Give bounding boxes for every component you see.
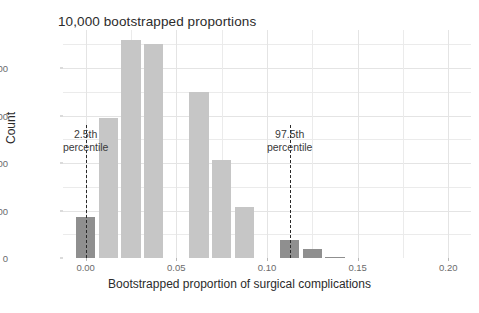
annotation-line-1: 97.5th bbox=[245, 128, 335, 141]
x-axis-tick-label: 0.00 bbox=[76, 262, 95, 273]
gridline-vertical bbox=[176, 30, 177, 258]
annotation-upper-percentile: 97.5thpercentile bbox=[245, 128, 335, 154]
x-axis-tick-label: 0.05 bbox=[167, 262, 186, 273]
gridline-vertical-minor bbox=[403, 30, 404, 258]
y-axis-tick-mark bbox=[60, 115, 63, 116]
histogram-bar bbox=[303, 249, 322, 258]
gridline-vertical bbox=[448, 30, 449, 258]
x-axis-title: Bootstrapped proportion of surgical comp… bbox=[0, 277, 479, 291]
y-axis-tick-mark bbox=[60, 163, 63, 164]
histogram-figure: 10,000 bootstrapped proportions 2.5thper… bbox=[0, 0, 479, 313]
histogram-bar bbox=[144, 44, 163, 258]
histogram-bar bbox=[325, 257, 344, 258]
x-axis-tick-mark bbox=[448, 258, 449, 261]
y-axis-tick-label: 500 bbox=[0, 205, 8, 216]
y-axis-title: Count bbox=[4, 112, 18, 144]
x-axis-tick-mark bbox=[267, 258, 268, 261]
gridline-vertical bbox=[358, 30, 359, 258]
x-axis-tick-mark bbox=[358, 258, 359, 261]
y-axis-tick-label: 1000 bbox=[0, 158, 8, 169]
y-axis-tick-label: 0 bbox=[3, 253, 8, 264]
y-axis-tick-mark bbox=[60, 210, 63, 211]
annotation-line-2: percentile bbox=[245, 141, 335, 154]
x-axis-tick-mark bbox=[86, 258, 87, 261]
annotation-line-2: percentile bbox=[41, 141, 131, 154]
y-axis-tick-mark bbox=[60, 258, 63, 259]
chart-title: 10,000 bootstrapped proportions bbox=[58, 14, 256, 29]
x-axis-tick-label: 0.10 bbox=[258, 262, 277, 273]
histogram-bar bbox=[235, 207, 254, 258]
y-axis-tick-mark bbox=[60, 68, 63, 69]
annotation-line-1: 2.5th bbox=[41, 128, 131, 141]
annotation-lower-percentile: 2.5thpercentile bbox=[41, 128, 131, 154]
x-axis-tick-label: 0.20 bbox=[439, 262, 458, 273]
y-axis-tick-label: 2000 bbox=[0, 63, 8, 74]
x-axis-tick-mark bbox=[176, 258, 177, 261]
histogram-bar bbox=[212, 160, 231, 258]
histogram-bar bbox=[189, 92, 208, 258]
x-axis-tick-label: 0.15 bbox=[348, 262, 367, 273]
